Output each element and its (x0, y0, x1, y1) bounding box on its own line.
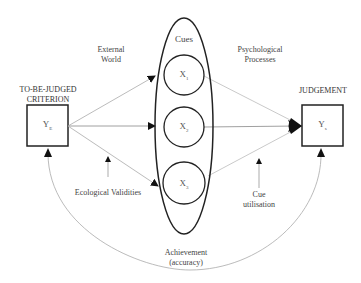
external-world-label: External World (90, 45, 132, 65)
cue-utilisation-label: Cue utilisation (238, 190, 280, 210)
criterion-header: TO-BE-JUDGED CRITERION (14, 85, 82, 105)
cue-x3-label: X3 (164, 178, 204, 190)
criterion-variable: YE (27, 119, 68, 131)
ecological-validities-label: Ecological Validities (72, 188, 144, 198)
cues-label: Cues (164, 34, 204, 44)
line-x1-judgement (204, 76, 298, 124)
judgement-variable: Ys (302, 119, 343, 131)
achievement-arrow-left (44, 148, 52, 157)
judgement-header: JUDGEMENT (290, 86, 356, 96)
cue-x1-label: X1 (164, 69, 204, 81)
line-x2-judgement (204, 126, 298, 127)
achievement-arrow-right (317, 148, 325, 157)
arrow-criterion-x3 (68, 126, 158, 186)
psychological-processes-label: Psychological Processes (230, 45, 290, 65)
achievement-label: Achievement (accuracy) (158, 248, 214, 268)
cue-x2-label: X2 (164, 121, 204, 133)
line-x3-judgement (208, 128, 298, 176)
